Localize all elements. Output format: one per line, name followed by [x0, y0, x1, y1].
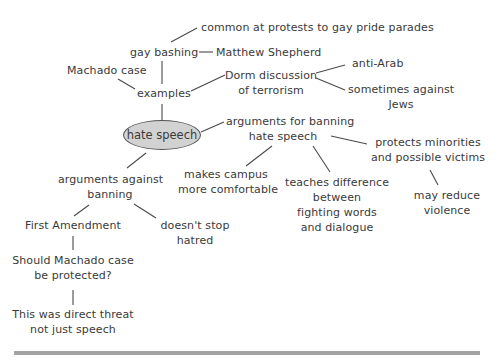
node-protects-minorities: protects minorities and possible victims: [370, 135, 486, 165]
node-arguments-for-banning: arguments for banning hate speech: [226, 114, 340, 144]
node-against-jews: sometimes against Jews: [348, 82, 454, 112]
central-concept-hate-speech: hate speech: [123, 120, 201, 150]
node-dorm-discussion: Dorm discussion of terrorism: [224, 68, 318, 98]
node-common-at-protests: common at protests to gay pride parades: [201, 20, 434, 35]
node-examples: examples: [137, 86, 191, 101]
node-makes-campus-comfortable: makes campus more comfortable: [178, 167, 274, 197]
node-may-reduce-violence: may reduce violence: [413, 188, 481, 218]
bottom-divider: [14, 351, 480, 355]
concept-map-canvas: common at protests to gay pride parades …: [0, 0, 498, 362]
node-doesnt-stop-hatred: doesn't stop hatred: [157, 218, 233, 248]
node-first-amendment: First Amendment: [25, 218, 121, 233]
node-machado-case: Machado case: [67, 63, 147, 78]
node-anti-arab: anti-Arab: [352, 56, 403, 71]
node-teaches-difference: teaches difference between fighting word…: [285, 175, 389, 235]
node-should-machado-be-protected: Should Machado case be protected?: [10, 253, 136, 283]
node-direct-threat: This was direct threat not just speech: [10, 307, 136, 337]
node-gay-bashing: gay bashing: [130, 45, 198, 60]
node-matthew-shepherd: Matthew Shepherd: [216, 45, 321, 60]
node-arguments-against-banning: arguments against banning: [58, 172, 162, 202]
